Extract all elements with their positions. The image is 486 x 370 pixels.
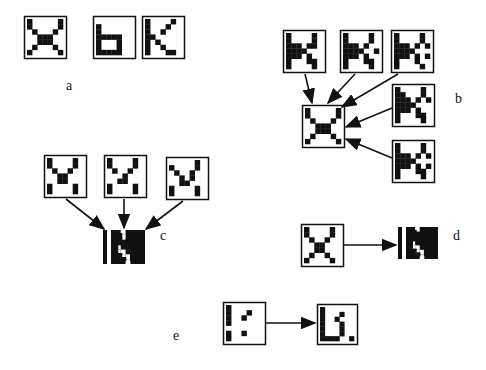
b-recalled-pattern — [318, 305, 358, 345]
x-pattern — [303, 106, 345, 148]
arrow-b4 — [346, 108, 392, 127]
v-pattern-1 — [45, 156, 87, 198]
v-pattern-2 — [105, 156, 147, 198]
arrow-c3 — [146, 201, 183, 229]
arrow-b1 — [305, 74, 312, 103]
noisy-x-2 — [341, 31, 383, 73]
x-pattern — [302, 225, 344, 267]
noisy-x-5 — [393, 141, 435, 183]
panel-label-c: c — [160, 228, 166, 244]
panel-label-b: b — [455, 91, 462, 107]
x-pattern — [25, 17, 67, 59]
noisy-x-1 — [284, 31, 326, 73]
figure-canvas — [0, 0, 486, 370]
arrow-c1 — [66, 199, 104, 229]
b-pattern — [94, 17, 136, 59]
arrow-b2 — [328, 74, 355, 103]
partial-pattern — [224, 303, 266, 345]
v-pattern-3 — [167, 158, 209, 200]
panel-label-d: d — [453, 228, 460, 244]
noisy-x-3 — [392, 31, 434, 73]
panel-label-e: e — [173, 328, 179, 344]
noisy-x-4 — [393, 85, 435, 127]
k-pattern — [143, 17, 185, 59]
panel-label-a: a — [66, 78, 72, 94]
arrow-b5 — [346, 139, 392, 158]
